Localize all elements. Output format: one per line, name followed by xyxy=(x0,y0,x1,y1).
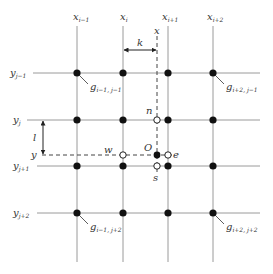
neighbor-west-point xyxy=(120,152,126,158)
origin-point xyxy=(154,152,161,159)
row-label-y-j+2: yj+2 xyxy=(12,207,30,220)
column-label-x-i+2: xi+2 xyxy=(207,11,224,23)
interpolation-grid-diagram: xi−1 xi xi+1 xi+2 yj−1 yj yj+1 yj+2 x y … xyxy=(0,0,273,274)
grid-node xyxy=(164,209,171,216)
neighbor-north-label: n xyxy=(146,105,152,116)
grid-node xyxy=(119,162,126,169)
neighbor-east-point xyxy=(165,152,171,158)
grid-node xyxy=(119,209,126,216)
spacing-l-label: l xyxy=(33,132,36,143)
query-y-label: y xyxy=(30,149,37,160)
neighbor-south-point xyxy=(154,163,160,169)
corner-label-bottom-left: gi−1, j+2 xyxy=(90,221,122,234)
row-label-y-j+1: yj+1 xyxy=(12,160,29,173)
query-x-label: x xyxy=(154,25,160,36)
grid-node xyxy=(209,116,216,123)
leader-line xyxy=(215,215,224,224)
grid-node xyxy=(164,162,171,169)
corner-label-bottom-right: gi+2, j+2 xyxy=(226,221,258,234)
neighbor-north-point xyxy=(154,117,160,123)
leader-line xyxy=(79,215,88,224)
column-label-x-i-1: xi−1 xyxy=(73,11,89,23)
grid-node xyxy=(209,162,216,169)
row-label-y-j: yj xyxy=(12,114,21,127)
grid-node xyxy=(164,116,171,123)
grid-node xyxy=(119,69,126,76)
column-label-x-i+1: xi+1 xyxy=(162,11,178,23)
corner-label-top-left: gi−1, j−1 xyxy=(90,81,122,94)
leader-line xyxy=(79,75,88,84)
neighbor-south-label: s xyxy=(153,172,158,183)
corner-label-top-right: gi+2, j−1 xyxy=(226,81,258,94)
grid-node xyxy=(73,116,80,123)
column-label-x-i: xi xyxy=(120,11,128,23)
neighbor-east-label: e xyxy=(173,149,179,160)
grid-node xyxy=(164,69,171,76)
row-label-y-j-1: yj−1 xyxy=(9,67,26,80)
grid-node xyxy=(119,116,126,123)
grid-node xyxy=(73,162,80,169)
leader-line xyxy=(215,75,224,84)
origin-label: O xyxy=(144,142,152,153)
spacing-k-label: k xyxy=(137,37,143,48)
neighbor-west-label: w xyxy=(104,144,113,155)
